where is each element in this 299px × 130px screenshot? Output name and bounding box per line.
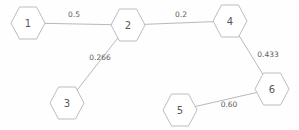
graph-diagram: 123456 0.50.2660.20.4330.60 bbox=[0, 0, 299, 130]
edge-weight-label-1-2: 0.5 bbox=[68, 10, 80, 19]
graph-node-5[interactable]: 5 bbox=[163, 94, 197, 126]
edge-weight-label-2-4: 0.2 bbox=[175, 10, 187, 19]
graph-node-label-3: 3 bbox=[64, 98, 70, 109]
graph-node-2[interactable]: 2 bbox=[111, 9, 145, 41]
graph-node-label-6: 6 bbox=[269, 84, 275, 95]
graph-edge-2-3 bbox=[77, 37, 119, 91]
graph-node-1[interactable]: 1 bbox=[11, 7, 45, 39]
edge-weight-label-5-6: 0.60 bbox=[221, 100, 238, 109]
graph-edge-2-4 bbox=[144, 22, 215, 25]
edge-weight-label-2-3: 0.266 bbox=[89, 53, 111, 62]
graph-node-6[interactable]: 6 bbox=[255, 73, 289, 105]
graph-edge-1-2 bbox=[44, 23, 113, 24]
graph-node-label-4: 4 bbox=[227, 16, 233, 27]
edge-weight-label-4-6: 0.433 bbox=[257, 50, 279, 59]
graph-node-label-5: 5 bbox=[177, 105, 183, 116]
graph-node-label-2: 2 bbox=[125, 20, 131, 31]
graph-node-3[interactable]: 3 bbox=[50, 87, 84, 119]
graph-canvas: 123456 0.50.2660.20.4330.60 bbox=[0, 0, 299, 130]
graph-node-label-1: 1 bbox=[25, 18, 31, 29]
graph-node-4[interactable]: 4 bbox=[213, 5, 247, 37]
